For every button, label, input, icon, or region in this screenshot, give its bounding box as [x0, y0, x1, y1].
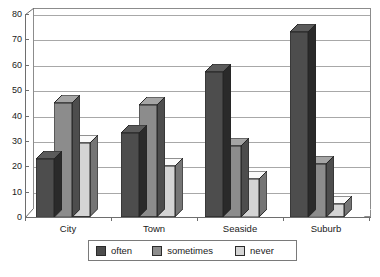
y-tick-label-80: 80 — [0, 10, 22, 19]
y-tick-label-30: 30 — [0, 137, 22, 146]
legend-item-often[interactable]: often — [96, 241, 132, 260]
bar-town-often[interactable] — [121, 125, 147, 217]
x-tick-mark-4 — [369, 217, 370, 221]
legend-swatch-sometimes-icon — [152, 246, 162, 256]
y-tick-mark-70 — [25, 39, 29, 40]
y-tick-mark-40 — [25, 116, 29, 117]
bar-suburb-often[interactable] — [290, 24, 316, 217]
x-tick-mark-2 — [197, 217, 198, 221]
y-tick-mark-30 — [25, 141, 29, 142]
bar-shape — [290, 24, 316, 217]
bar-seaside-often[interactable] — [205, 64, 231, 217]
legend-swatch-often-icon — [96, 246, 106, 256]
legend-label-often: often — [111, 245, 132, 256]
y-tick-mark-80 — [25, 14, 29, 15]
gridline-60 — [34, 66, 370, 67]
legend-label-never: never — [250, 245, 274, 256]
y-tick-label-10: 10 — [0, 188, 22, 197]
y-tick-label-50: 50 — [0, 86, 22, 95]
bar-shape — [36, 151, 62, 217]
y-axis-back-line — [33, 8, 34, 217]
y-tick-label-70: 70 — [0, 35, 22, 44]
y-tick-mark-10 — [25, 192, 29, 193]
legend-swatch-never-icon — [235, 246, 245, 256]
y-axis-labels: 80 70 60 50 40 30 20 10 0 — [0, 0, 22, 277]
bar-shape — [121, 125, 147, 217]
x-tick-label-city: City — [38, 223, 98, 234]
bar-shape — [205, 64, 231, 217]
y-tick-label-60: 60 — [0, 61, 22, 70]
x-tick-mark-0 — [25, 217, 26, 221]
legend-label-sometimes: sometimes — [167, 245, 213, 256]
x-tick-label-town: Town — [124, 223, 184, 234]
x-tick-label-suburb: Suburb — [296, 223, 356, 234]
legend-item-sometimes[interactable]: sometimes — [152, 241, 213, 260]
chart-legend: often sometimes never — [88, 240, 297, 261]
y-tick-label-20: 20 — [0, 162, 22, 171]
x-tick-label-seaside: Seaside — [210, 223, 270, 234]
y-tick-mark-60 — [25, 65, 29, 66]
y-tick-label-40: 40 — [0, 112, 22, 121]
gridline-80 — [34, 15, 370, 16]
bar-city-often[interactable] — [36, 151, 62, 217]
x-tick-mark-1 — [111, 217, 112, 221]
bar-chart: 80 70 60 50 40 30 20 10 0 City Town Seas… — [0, 0, 380, 277]
legend-item-never[interactable]: never — [235, 241, 274, 260]
y-tick-mark-50 — [25, 90, 29, 91]
gridline-70 — [34, 40, 370, 41]
gridline-40 — [34, 117, 370, 118]
gridline-50 — [34, 91, 370, 92]
x-tick-mark-3 — [283, 217, 284, 221]
y-tick-mark-20 — [25, 166, 29, 167]
x-axis-line — [25, 217, 371, 218]
y-tick-label-0: 0 — [0, 213, 22, 222]
